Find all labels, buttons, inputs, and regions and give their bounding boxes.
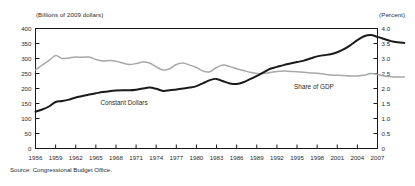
x-axis-tick-label: 1998 xyxy=(310,154,324,161)
series-line-constant-dollars xyxy=(36,35,405,112)
x-axis-tick-label: 1968 xyxy=(109,154,123,161)
left-axis-tick-label: 50 xyxy=(25,130,32,137)
x-axis-tick-label: 1995 xyxy=(290,154,304,161)
x-axis-tick-label: 2007 xyxy=(371,154,385,161)
left-axis-tick-label: 150 xyxy=(21,100,32,107)
left-axis-tick-group: 400350300250200150100500 xyxy=(21,25,39,152)
left-axis-tick-label: 300 xyxy=(21,55,32,62)
left-axis-tick-label: 250 xyxy=(21,70,32,77)
x-axis-tick-label: 1971 xyxy=(129,154,143,161)
x-axis-tick-label: 1974 xyxy=(149,154,163,161)
source-note: Source: Congressional Budget Office. xyxy=(10,166,112,173)
x-axis-tick-label: 1992 xyxy=(270,154,284,161)
left-axis-tick-label: 400 xyxy=(21,25,32,32)
series-label-constant-dollars: Constant Dollars xyxy=(100,99,147,106)
right-axis-tick-label: 0.5 xyxy=(382,130,391,137)
left-axis-tick-label: 100 xyxy=(21,115,32,122)
right-axis-tick-group: 4.03.53.02.52.01.51.00.50 xyxy=(374,25,391,152)
right-axis-tick-label: 3.0 xyxy=(382,55,391,62)
right-axis-tick-label: 1.0 xyxy=(382,115,391,122)
x-axis-tick-label: 1956 xyxy=(29,154,43,161)
right-axis-tick-label: 2.0 xyxy=(382,85,391,92)
x-axis-tick-label: 1965 xyxy=(89,154,103,161)
left-axis-tick-label: 200 xyxy=(21,85,32,92)
x-axis-tick-label: 1962 xyxy=(69,154,83,161)
x-axis-tick-label: 1983 xyxy=(210,154,224,161)
right-axis-tick-label: 4.0 xyxy=(382,25,391,32)
x-axis-tick-label: 1959 xyxy=(49,154,63,161)
x-axis-tick-label: 2001 xyxy=(330,154,344,161)
series-line-share-of-gdp xyxy=(36,55,405,77)
x-axis-tick-label: 1986 xyxy=(230,154,244,161)
right-axis-tick-label: 0 xyxy=(382,145,386,152)
x-axis-tick-label: 1989 xyxy=(250,154,264,161)
right-axis-tick-label: 1.5 xyxy=(382,100,391,107)
x-axis-tick-label: 2004 xyxy=(350,154,364,161)
line-chart-plot: 400350300250200150100500 4.03.53.02.52.0… xyxy=(0,0,415,186)
left-axis-tick-label: 0 xyxy=(28,145,32,152)
left-axis-tick-label: 350 xyxy=(21,40,32,47)
x-axis-tick-label: 1980 xyxy=(190,154,204,161)
series-label-share-of-gdp: Share of GDP xyxy=(294,83,334,90)
x-axis-tick-group: 1956195919621965196819711974197719801983… xyxy=(29,145,385,161)
chart-figure: (Billions of 2009 dollars) (Percent) 400… xyxy=(0,0,415,186)
x-axis-tick-label: 1977 xyxy=(169,154,183,161)
